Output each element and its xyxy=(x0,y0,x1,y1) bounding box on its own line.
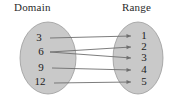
element-label-range-5: 5 xyxy=(141,75,147,87)
mapping-diagram-svg: 3691212345 xyxy=(0,0,180,107)
element-label-domain-3: 3 xyxy=(36,31,42,43)
element-label-domain-9: 9 xyxy=(38,61,44,73)
element-label-domain-6: 6 xyxy=(38,45,44,57)
element-label-range-4: 4 xyxy=(141,63,147,75)
set-ellipse-range xyxy=(113,22,163,94)
element-label-domain-12: 12 xyxy=(35,75,46,87)
domain-range-mapping-figure: Domain Range 3691212345 xyxy=(0,0,180,107)
element-label-range-3: 3 xyxy=(141,51,147,63)
